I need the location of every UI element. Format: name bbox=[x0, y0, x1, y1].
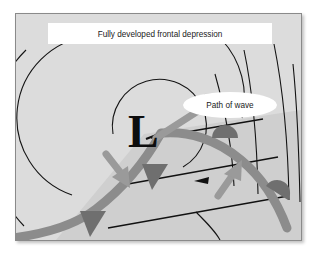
title-label: Fully developed frontal depression bbox=[98, 30, 223, 39]
frontal-depression-diagram: L Fully developed frontal depression Pat… bbox=[16, 14, 301, 240]
path-of-wave-label: Path of wave bbox=[206, 101, 254, 110]
low-pressure-symbol: L bbox=[128, 106, 159, 157]
screenshot-root: L Fully developed frontal depression Pat… bbox=[0, 0, 317, 254]
path-of-wave-label-group: Path of wave bbox=[183, 92, 277, 118]
diagram-frame: L Fully developed frontal depression Pat… bbox=[15, 13, 302, 241]
title-box: Fully developed frontal depression bbox=[48, 23, 272, 44]
